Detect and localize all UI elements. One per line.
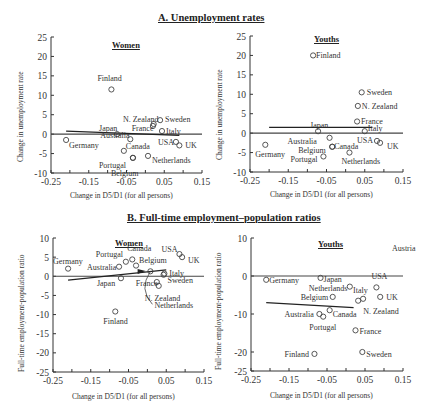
- x-tick-label: -0.05: [117, 177, 137, 187]
- data-label: UK: [185, 141, 197, 150]
- x-tick-label: -0.05: [317, 176, 337, 186]
- data-label: Belgium: [298, 146, 326, 155]
- data-label: Belgium: [111, 169, 139, 178]
- data-label: Belgium: [139, 256, 167, 265]
- data-label: Finland: [97, 74, 121, 83]
- y-tick-label: -5: [238, 148, 246, 158]
- y-tick-label: 20: [38, 52, 48, 62]
- data-point: [116, 264, 121, 269]
- x-tick-label: 0.15: [395, 375, 412, 385]
- data-label: Japan: [310, 121, 328, 130]
- data-label: Canada: [333, 310, 357, 319]
- data-label: Germany: [255, 150, 285, 159]
- data-label: Japan: [97, 279, 115, 288]
- data-label: Italy: [166, 127, 181, 136]
- data-point: [360, 349, 365, 354]
- data-point: [123, 259, 128, 264]
- x-tick-label: 0.15: [194, 177, 211, 187]
- fit-line: [266, 303, 353, 308]
- x-tick-label: -0.25: [43, 376, 63, 386]
- data-point: [347, 284, 352, 289]
- data-point: [64, 137, 69, 142]
- data-point: [264, 277, 269, 282]
- data-label: N. Zealand: [362, 102, 398, 111]
- data-label: Australia: [288, 137, 318, 146]
- data-label: Canada: [127, 244, 151, 253]
- data-point: [177, 143, 182, 148]
- data-label: Italy: [353, 286, 368, 295]
- data-label: France: [136, 279, 158, 288]
- data-label: Germany: [269, 276, 299, 285]
- x-tick-label: -0.25: [241, 375, 261, 385]
- data-label: Netherlands: [309, 284, 348, 293]
- y-tick-label: -10: [234, 310, 247, 320]
- data-label: USA: [357, 136, 373, 145]
- data-point: [330, 294, 335, 299]
- y-tick-label: -5: [41, 291, 49, 301]
- y-tick-label: 0: [44, 272, 49, 282]
- data-label: Portugal: [309, 323, 337, 332]
- y-tick-label: 15: [237, 70, 247, 80]
- data-point: [263, 142, 268, 147]
- data-label: Canada: [334, 142, 358, 151]
- y-tick-label: 5: [42, 110, 47, 120]
- data-label: Austria: [392, 244, 416, 253]
- x-tick-label: -0.15: [279, 375, 299, 385]
- y-tick-label: 20: [237, 51, 247, 61]
- data-point: [353, 328, 358, 333]
- data-label: Australia: [87, 263, 117, 272]
- data-point: [130, 155, 135, 160]
- y-tick-label: 25: [237, 32, 247, 42]
- x-tick-label: 0.15: [196, 376, 213, 386]
- data-label: USA: [161, 245, 177, 254]
- data-label: Italy: [368, 124, 383, 133]
- data-label: France: [132, 124, 154, 133]
- data-label: Netherlands: [341, 157, 380, 166]
- data-label: UK: [386, 293, 398, 302]
- data-label: Netherlands: [152, 156, 191, 165]
- data-point: [359, 90, 364, 95]
- x-tick-label: -0.05: [317, 375, 337, 385]
- data-label: Canada: [126, 142, 150, 151]
- data-point: [378, 294, 383, 299]
- data-point: [355, 103, 360, 108]
- y-tick-label: -10: [36, 310, 49, 320]
- y-tick-label: 10: [238, 234, 248, 244]
- x-tick-label: -0.25: [240, 176, 260, 186]
- data-label: Belgium: [301, 293, 329, 302]
- data-label: Portugal: [290, 155, 318, 164]
- data-label: N. Zealand: [363, 307, 399, 316]
- x-tick-label: 0.15: [395, 176, 412, 186]
- y-tick-label: -15: [36, 329, 49, 339]
- data-label: Germany: [53, 257, 83, 266]
- y-tick-label: -20: [36, 348, 49, 358]
- data-label: N. Zealand: [145, 294, 181, 303]
- y-tick-label: 10: [40, 234, 50, 244]
- data-point: [321, 314, 326, 319]
- data-point: [347, 150, 352, 155]
- data-label: Australia: [100, 131, 130, 140]
- data-point: [130, 257, 135, 262]
- y-tick-label: -20: [234, 348, 247, 358]
- data-label: Sweden: [168, 276, 193, 285]
- data-label: Finland: [103, 317, 127, 326]
- data-point: [312, 351, 317, 356]
- data-point: [109, 87, 114, 92]
- y-tick-label: 10: [237, 90, 247, 100]
- data-label: Sweden: [165, 115, 190, 124]
- x-tick-label: 0.05: [156, 177, 173, 187]
- y-tick-label: 25: [38, 33, 48, 43]
- data-label: Sweden: [367, 88, 392, 97]
- x-tick-label: -0.05: [119, 376, 139, 386]
- data-label: Finland: [284, 350, 308, 359]
- data-point: [133, 263, 138, 268]
- data-label: USA: [158, 138, 174, 147]
- data-label: Japan: [324, 275, 342, 284]
- data-label: UK: [387, 142, 399, 151]
- x-tick-label: -0.15: [79, 177, 99, 187]
- x-tick-label: -0.15: [278, 176, 298, 186]
- data-point: [361, 296, 366, 301]
- data-label: USA: [371, 272, 387, 281]
- data-point: [374, 285, 379, 290]
- data-label: Australia: [284, 310, 314, 319]
